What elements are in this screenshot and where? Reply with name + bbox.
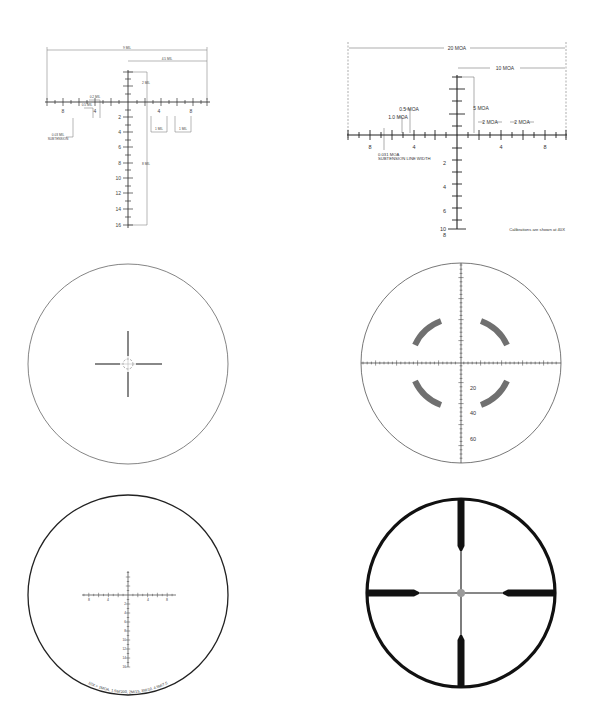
dim-upper-post: 2 MIL xyxy=(142,81,150,85)
duplex-post-right xyxy=(503,590,554,597)
h-label: 8 xyxy=(368,144,371,150)
dim-line-width-sub: SUBTENSION xyxy=(48,137,69,141)
arc-caption: 10X = 1MOA, 1.5M/200, 2M/15, 3M/10, 4.5M… xyxy=(88,681,169,694)
v-label: 14 xyxy=(122,656,126,660)
dim-overall: 9 MIL xyxy=(123,46,131,50)
h-label: 4 xyxy=(412,144,415,150)
v-label: 12 xyxy=(115,190,121,196)
v-label: 6 xyxy=(443,208,446,214)
dim-gap-2: 2 MOA xyxy=(514,119,530,125)
caption-arc: 10X = 1MOA, 1.5M/200, 2M/15, 3M/10, 4.5M… xyxy=(88,681,169,694)
arc-milling-drawing: 20 40 60 xyxy=(355,260,575,470)
ballistic-circle-drawing: 8 4 4 8 2 4 6 8 10 12 14 16 10X = 1MOA, … xyxy=(20,490,240,715)
v-label: 16 xyxy=(115,222,121,228)
reticle-arc-milling: 20 40 60 xyxy=(355,260,575,470)
reticle-fine-crosshair xyxy=(20,260,240,470)
reticle-mrad-ladder: 9 MIL 4.5 MIL 2 MIL 8 MIL 0.2 MIL 0.5 MI… xyxy=(0,0,240,250)
dim-lower-post: 8 MIL xyxy=(142,162,150,166)
v-label: 4 xyxy=(118,129,121,135)
v-label: 14 xyxy=(115,206,121,212)
h-label: 4 xyxy=(499,144,502,150)
h-label: 4 xyxy=(107,598,109,602)
v-label: 20 xyxy=(470,385,476,391)
v-label: 40 xyxy=(470,410,476,416)
h-label: 4 xyxy=(147,598,149,602)
h-label: 8 xyxy=(166,598,168,602)
duplex-post-top xyxy=(458,500,465,551)
dim-one-moa: 1.0 MOA xyxy=(388,114,408,120)
dim-right-half: 10 MOA xyxy=(496,65,515,71)
dim-gap-1: 2 MOA xyxy=(482,119,498,125)
dim-gap-2: 1 MIL xyxy=(179,127,187,131)
duplex-post-bottom xyxy=(458,635,465,686)
v-label: 60 xyxy=(470,436,476,442)
v-label: 8 xyxy=(118,160,121,166)
v-label: 8 xyxy=(443,232,446,238)
v-label: 2 xyxy=(443,160,446,166)
v-label: 4 xyxy=(443,184,446,190)
v-label: 10 xyxy=(440,226,446,232)
fine-crosshair-drawing xyxy=(20,260,240,470)
dim-line-width-sub: SUBTENSION LINE WIDTH xyxy=(378,156,431,161)
dim-half-moa: 0.5 MOA xyxy=(399,106,419,112)
v-label: 8 xyxy=(124,629,126,633)
v-label: 4 xyxy=(124,611,126,615)
h-label: 8 xyxy=(190,108,193,114)
v-label: 2 xyxy=(118,114,121,120)
calibration-note: Calibrations are shown at 40X xyxy=(509,227,565,232)
v-label: 12 xyxy=(122,647,126,651)
dim-right-half: 4.5 MIL xyxy=(162,57,173,61)
moa-ladder-drawing: 20 MOA 10 MOA 5 MOA 0.5 MOA 1.0 MOA 2 MO… xyxy=(330,0,605,250)
reticle-moa-ladder: 20 MOA 10 MOA 5 MOA 0.5 MOA 1.0 MOA 2 MO… xyxy=(330,0,605,250)
h-label: 8 xyxy=(88,598,90,602)
h-label: 4 xyxy=(94,108,97,114)
v-label: 6 xyxy=(124,620,126,624)
duplex-drawing xyxy=(355,490,575,715)
v-label: 16 xyxy=(122,665,126,669)
v-label: 6 xyxy=(118,144,121,150)
reticle-duplex xyxy=(355,490,575,715)
center-dot xyxy=(457,589,465,597)
h-label: 4 xyxy=(158,108,161,114)
reticle-ballistic-circle: 8 4 4 8 2 4 6 8 10 12 14 16 10X = 1MOA, … xyxy=(20,490,240,715)
v-label: 2 xyxy=(124,602,126,606)
dim-upper-post: 5 MOA xyxy=(473,105,489,111)
v-label: 10 xyxy=(115,175,121,181)
duplex-post-left xyxy=(368,590,419,597)
h-label: 8 xyxy=(543,144,546,150)
dim-gap-1: 1 MIL xyxy=(155,127,163,131)
h-label: 8 xyxy=(62,108,65,114)
v-label: 10 xyxy=(122,638,126,642)
mrad-ladder-drawing: 9 MIL 4.5 MIL 2 MIL 8 MIL 0.2 MIL 0.5 MI… xyxy=(0,0,240,250)
dim-overall: 20 MOA xyxy=(448,45,467,51)
